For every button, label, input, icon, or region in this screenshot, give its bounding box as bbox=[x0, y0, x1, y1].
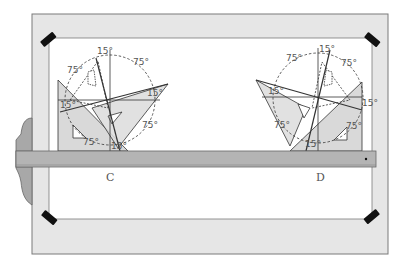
angle-label: 75° bbox=[286, 53, 302, 63]
angle-label: 15° bbox=[60, 100, 76, 110]
angle-label: 75° bbox=[142, 120, 158, 130]
angle-label: 75° bbox=[346, 121, 362, 131]
angle-label: 15° bbox=[305, 139, 321, 149]
angle-label: 75° bbox=[341, 58, 357, 68]
angle-label: 15° bbox=[111, 141, 127, 151]
angle-label: 75° bbox=[133, 57, 149, 67]
figure-label-d: D bbox=[316, 171, 325, 184]
angle-label: 15° bbox=[362, 98, 378, 108]
angle-label: 15° bbox=[268, 86, 284, 96]
figure-label-c: C bbox=[106, 171, 114, 184]
angle-label: 15° bbox=[97, 46, 113, 56]
angle-label: 75° bbox=[67, 65, 83, 75]
drafting-board-diagram bbox=[0, 0, 399, 265]
angle-label: 75° bbox=[274, 120, 290, 130]
tsquare-blade bbox=[16, 151, 376, 167]
angle-label: 15° bbox=[147, 88, 163, 98]
tsquare-hole bbox=[365, 158, 367, 160]
angle-label: 15° bbox=[319, 44, 335, 54]
angle-label: 75° bbox=[83, 137, 99, 147]
